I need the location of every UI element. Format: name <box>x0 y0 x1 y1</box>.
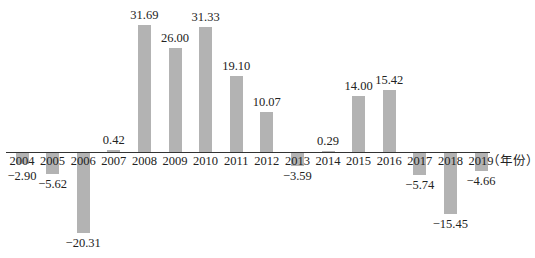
x-axis-line <box>6 152 490 153</box>
bar-2010 <box>199 27 212 152</box>
x-tick-label: 2019 <box>461 155 501 168</box>
value-label: −15.45 <box>425 218 475 231</box>
value-label: 0.42 <box>89 134 139 147</box>
value-label: −20.31 <box>58 237 108 250</box>
value-label: −5.62 <box>28 178 78 191</box>
bar-2016 <box>383 90 396 152</box>
value-label: −3.59 <box>272 170 322 183</box>
value-label: 10.07 <box>242 96 292 109</box>
bar-2011 <box>230 76 243 152</box>
value-label: 26.00 <box>150 32 200 45</box>
value-label: −5.74 <box>395 179 445 192</box>
value-label: 31.33 <box>181 11 231 24</box>
value-label: 15.42 <box>364 74 414 87</box>
bar-2009 <box>169 48 182 152</box>
bar-2008 <box>138 25 151 152</box>
value-label: 19.10 <box>211 60 261 73</box>
value-label: 31.69 <box>119 9 169 22</box>
bar-2012 <box>260 112 273 152</box>
value-label: 0.29 <box>303 135 353 148</box>
bar-2015 <box>352 96 365 152</box>
value-label: −4.66 <box>456 175 506 188</box>
